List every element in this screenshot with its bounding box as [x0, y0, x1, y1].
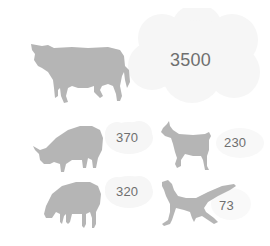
goat-value: 230 — [224, 135, 246, 150]
cloud-bubble: 370 — [103, 120, 155, 156]
sheep-value: 320 — [116, 184, 138, 199]
human-figure-icon — [160, 180, 236, 226]
cloud-bubble: 230 — [214, 126, 266, 160]
cow-icon — [28, 40, 130, 104]
sheep-icon — [42, 178, 102, 230]
pig-item: 370 — [0, 110, 150, 170]
cow-item: 3500 — [0, 0, 270, 110]
pig-icon — [32, 124, 104, 174]
goat-icon — [159, 120, 215, 172]
human-item: 73 — [150, 170, 270, 236]
cow-value: 3500 — [170, 50, 211, 71]
cloud-bubble: 320 — [103, 174, 155, 210]
cloud-bubble: 3500 — [122, 8, 268, 108]
pig-value: 370 — [116, 130, 138, 145]
sheep-item: 320 — [0, 170, 150, 236]
goat-item: 230 — [150, 110, 270, 170]
